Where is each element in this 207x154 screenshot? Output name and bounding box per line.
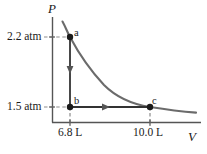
process-a-to-b bbox=[67, 37, 74, 107]
x-axis-label-volume: V bbox=[188, 130, 196, 143]
x-tick-label-10-0-l: 10.0 L bbox=[133, 127, 163, 139]
point-a-label: a bbox=[74, 28, 79, 39]
isotherm-curve bbox=[63, 22, 197, 113]
pv-diagram-figure: 2.2 atm 1.5 atm 6.8 L 10.0 L P V a b c bbox=[0, 0, 207, 154]
process-a-to-b-arrowhead bbox=[67, 66, 74, 74]
guide-lines bbox=[44, 37, 150, 126]
pv-diagram-canvas bbox=[0, 0, 207, 154]
x-tick-label-6-8-l: 6.8 L bbox=[58, 127, 82, 139]
y-tick-label-2-2-atm: 2.2 atm bbox=[7, 31, 42, 43]
point-a-marker bbox=[67, 34, 73, 40]
y-axis-label-pressure: P bbox=[48, 2, 56, 15]
state-point-markers bbox=[67, 34, 153, 110]
point-b-marker bbox=[67, 104, 73, 110]
point-c-label: c bbox=[152, 96, 157, 107]
y-tick-label-1-5-atm: 1.5 atm bbox=[7, 101, 42, 113]
process-b-to-c-arrowhead bbox=[102, 104, 110, 111]
point-b-label: b bbox=[74, 96, 79, 107]
